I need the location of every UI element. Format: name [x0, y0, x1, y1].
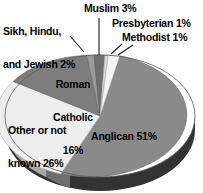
slice-label-anglican: Anglican 51% — [91, 131, 157, 142]
pie-chart: Sikh, Hindu, and Jewish 2% Muslim 3% Pre… — [0, 0, 203, 193]
slice-label-sikh-line1: Sikh, Hindu, — [3, 26, 75, 37]
leader-line-presbyterian — [111, 44, 122, 54]
slice-label-other-line1: Other or not — [8, 125, 92, 136]
slice-label-presbyterian: Presbyterian 1% — [112, 18, 191, 29]
slice-label-roman-line1: Roman — [46, 79, 100, 90]
slice-label-other-line2: known 26% — [8, 158, 92, 169]
slice-label-methodist: Methodist 1% — [122, 32, 187, 43]
slice-label-other: Other or not known 26% — [8, 103, 92, 191]
slice-label-muslim: Muslim 3% — [84, 3, 136, 14]
leader-line-methodist — [118, 45, 133, 55]
